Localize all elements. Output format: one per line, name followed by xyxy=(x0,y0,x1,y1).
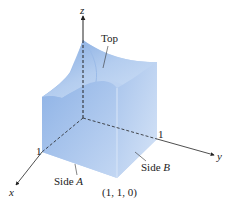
y-axis-label: y xyxy=(216,150,222,162)
top-label: Top xyxy=(101,32,118,44)
corner-label: (1, 1, 0) xyxy=(102,186,137,199)
y-tick-1: 1 xyxy=(158,128,164,140)
y-axis xyxy=(157,139,214,155)
x-axis-label: x xyxy=(8,186,14,198)
z-axis-label: z xyxy=(79,4,85,16)
x-tick-1: 1 xyxy=(36,145,42,157)
solid-diagram: z y x 1 1 Top Side A Side B (1, 1, 0) xyxy=(0,0,229,205)
side-a-label: Side A xyxy=(54,175,83,187)
side-b-label: Side B xyxy=(141,161,170,173)
side-a-leader xyxy=(75,164,77,175)
